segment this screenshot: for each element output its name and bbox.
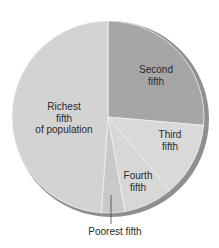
label-line: Fourth xyxy=(118,170,158,182)
label-line: Richest xyxy=(28,101,100,113)
label-line: fifth xyxy=(28,113,100,125)
label-line: Poorest fifth xyxy=(88,226,141,237)
label-poorest-fifth: Poorest fifth xyxy=(80,226,150,238)
label-fourth-fifth: Fourth fifth xyxy=(118,170,158,193)
label-richest-fifth: Richest fifth of population xyxy=(28,101,100,136)
label-line: of population xyxy=(28,124,100,136)
label-second-fifth: Second fifth xyxy=(128,64,184,87)
label-line: fifth xyxy=(118,182,158,194)
label-line: Second xyxy=(128,64,184,76)
label-line: fifth xyxy=(128,76,184,88)
label-third-fifth: Third fifth xyxy=(150,129,190,152)
label-line: Third xyxy=(150,129,190,141)
label-line: fifth xyxy=(150,141,190,153)
